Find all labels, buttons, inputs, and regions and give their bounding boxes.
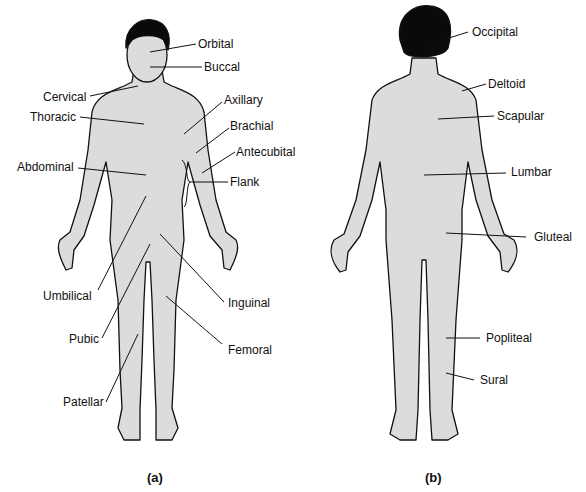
- label-thoracic: Thoracic: [30, 110, 76, 124]
- label-pubic: Pubic: [69, 332, 99, 346]
- label-sural: Sural: [480, 373, 508, 387]
- label-lumbar: Lumbar: [511, 165, 552, 179]
- label-cervical: Cervical: [43, 90, 86, 104]
- label-orbital: Orbital: [198, 37, 233, 51]
- label-umbilical: Umbilical: [43, 289, 92, 303]
- label-abdominal: Abdominal: [17, 160, 74, 174]
- caption-a: (a): [147, 470, 163, 485]
- label-occipital: Occipital: [472, 25, 518, 39]
- label-patellar: Patellar: [63, 395, 104, 409]
- label-brachial: Brachial: [230, 119, 273, 133]
- anterior-body: [58, 20, 237, 440]
- label-buccal: Buccal: [204, 60, 240, 74]
- label-scapular: Scapular: [497, 109, 544, 123]
- label-gluteal: Gluteal: [534, 230, 572, 244]
- label-popliteal: Popliteal: [486, 331, 532, 345]
- label-axillary: Axillary: [224, 93, 263, 107]
- label-antecubital: Antecubital: [236, 145, 295, 159]
- label-inguinal: Inguinal: [228, 296, 270, 310]
- label-deltoid: Deltoid: [488, 77, 525, 91]
- label-femoral: Femoral: [228, 343, 272, 357]
- label-flank: Flank: [230, 175, 259, 189]
- caption-b: (b): [425, 470, 442, 485]
- anatomy-figure: [0, 0, 586, 492]
